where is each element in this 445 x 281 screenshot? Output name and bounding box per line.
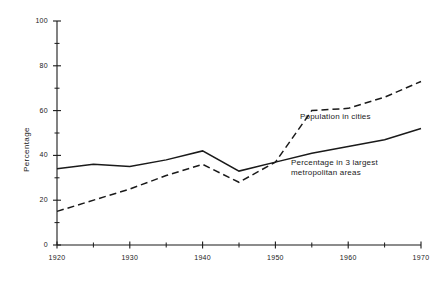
x-axis-tick-label: 1960: [328, 254, 368, 261]
y-axis-title: Percentage: [22, 127, 31, 172]
axes: [57, 21, 421, 245]
series-label-population-in-cities: Population in cities: [300, 112, 371, 122]
x-axis-tick-label: 1940: [183, 254, 223, 261]
y-axis-tick-label: 40: [0, 151, 48, 158]
y-axis-tick-label: 20: [0, 196, 48, 203]
data-series-group: [57, 81, 421, 211]
x-axis-tick-label: 1950: [255, 254, 295, 261]
series-label-metropolitan-areas: Percentage in 3 largest metropolitan are…: [291, 158, 378, 178]
chart-plot-area: [0, 0, 445, 281]
y-axis-tick-label: 0: [0, 241, 48, 248]
x-axis-tick-label: 1930: [110, 254, 150, 261]
x-axis-tick-label: 1920: [37, 254, 77, 261]
x-axis-tick-label: 1970: [401, 254, 441, 261]
series-line-dashed: [57, 81, 421, 211]
line-chart: Percentage 02040608010019201930194019501…: [0, 0, 445, 281]
y-axis-tick-label: 60: [0, 107, 48, 114]
y-axis-tick-label: 100: [0, 17, 48, 24]
y-axis-tick-label: 80: [0, 62, 48, 69]
